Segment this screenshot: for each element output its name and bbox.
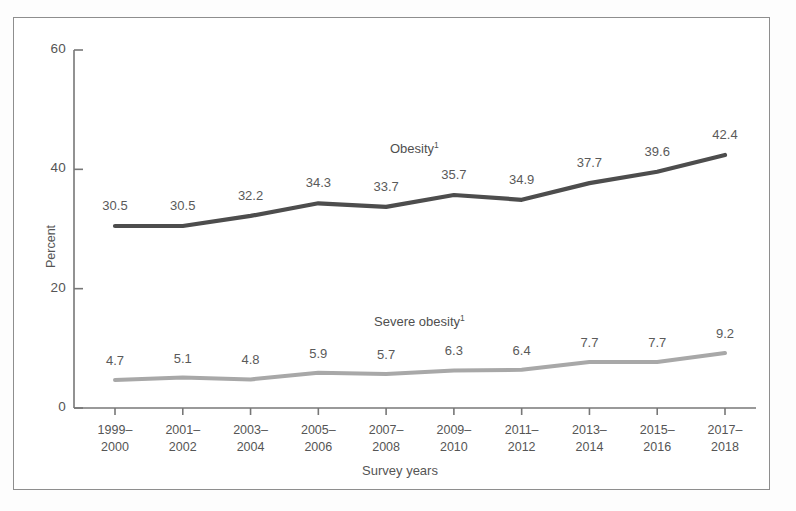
data-point-label: 33.7 [363, 179, 409, 194]
x-tick-label: 2001– 2002 [147, 422, 219, 456]
y-tick-label: 40 [38, 160, 66, 175]
x-tick-label: 2003– 2004 [215, 422, 287, 456]
data-point-label: 4.8 [228, 352, 274, 367]
series-label-obesity: Obesity1 [390, 140, 439, 156]
x-axis-title: Survey years [340, 463, 460, 478]
x-tick-label: 2011– 2012 [486, 422, 558, 456]
x-tick-label: 2013– 2014 [553, 422, 625, 456]
data-point-label: 32.2 [228, 188, 274, 203]
data-point-label: 30.5 [160, 198, 206, 213]
chart-figure: Percent 0204060 1999– 20002001– 20022003… [0, 0, 796, 511]
data-point-label: 4.7 [92, 353, 138, 368]
data-point-label: 39.6 [634, 144, 680, 159]
x-tick-label: 2009– 2010 [418, 422, 490, 456]
y-tick-label: 20 [38, 280, 66, 295]
data-point-label: 9.2 [702, 326, 748, 341]
series-label-severe-obesity-footnote: 1 [460, 313, 465, 323]
y-tick-label: 60 [38, 41, 66, 56]
data-point-label: 6.4 [499, 343, 545, 358]
x-tick-label: 2015– 2016 [621, 422, 693, 456]
data-point-label: 35.7 [431, 167, 477, 182]
data-point-label: 34.9 [499, 172, 545, 187]
data-point-label: 30.5 [92, 198, 138, 213]
series-label-severe-obesity: Severe obesity1 [374, 313, 465, 329]
data-point-label: 37.7 [566, 155, 612, 170]
data-point-label: 6.3 [431, 343, 477, 358]
x-tick-label: 1999– 2000 [79, 422, 151, 456]
series-label-obesity-text: Obesity [390, 141, 434, 156]
data-point-label: 5.1 [160, 351, 206, 366]
y-tick-label: 0 [38, 399, 66, 414]
x-tick-label: 2005– 2006 [282, 422, 354, 456]
data-point-label: 42.4 [702, 127, 748, 142]
y-axis-title: Percent [44, 225, 58, 268]
x-tick-label: 2007– 2008 [350, 422, 422, 456]
series-label-obesity-footnote: 1 [434, 140, 439, 150]
data-point-label: 7.7 [566, 335, 612, 350]
data-point-label: 34.3 [295, 175, 341, 190]
series-label-severe-obesity-text: Severe obesity [374, 314, 460, 329]
data-point-label: 5.7 [363, 347, 409, 362]
data-point-label: 7.7 [634, 335, 680, 350]
data-point-label: 5.9 [295, 346, 341, 361]
x-tick-label: 2017– 2018 [689, 422, 761, 456]
